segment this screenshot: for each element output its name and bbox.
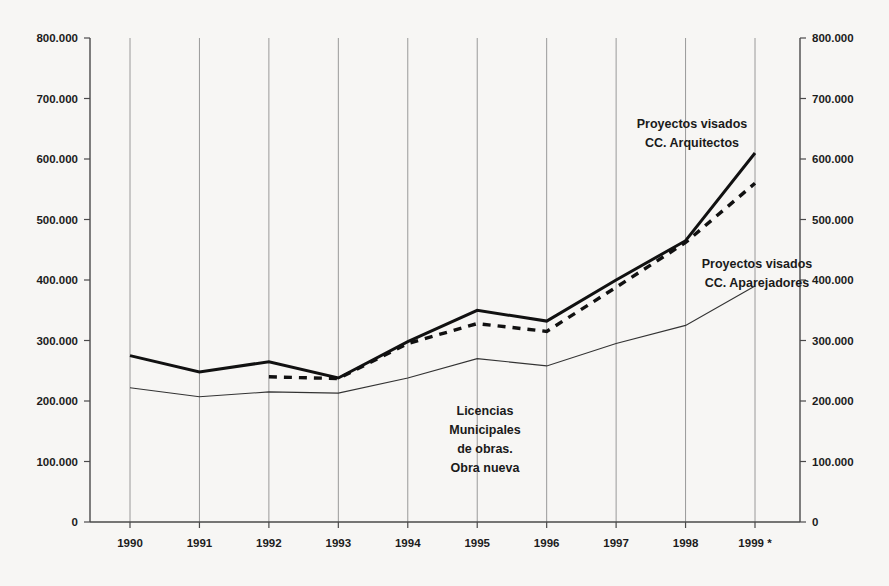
line-chart: 0100.000200.000300.000400.000500.000600.… [0,0,889,586]
chart-container: 0100.000200.000300.000400.000500.000600.… [0,0,889,586]
y-axis-right-label: 600.000 [812,153,854,165]
x-axis-label-1996: 1996 [534,537,560,549]
x-axis-label-1994: 1994 [395,537,421,549]
x-axis-label-1998: 1998 [673,537,699,549]
y-axis-right-label: 400.000 [812,274,854,286]
y-axis-right-label: 500.000 [812,214,854,226]
x-axis-label-1997: 1997 [603,537,629,549]
y-axis-right-label: 100.000 [812,456,854,468]
y-axis-right-label: 200.000 [812,395,854,407]
y-axis-left-label: 800.000 [36,32,78,44]
x-axis-label-1993: 1993 [326,537,352,549]
y-axis-left-label: 300.000 [36,335,78,347]
y-axis-right-label: 300.000 [812,335,854,347]
y-axis-left-label: 100.000 [36,456,78,468]
y-axis-left-label: 700.000 [36,93,78,105]
x-axis-label-1991: 1991 [187,537,213,549]
y-axis-right-label: 800.000 [812,32,854,44]
y-axis-left-label: 400.000 [36,274,78,286]
y-axis-left-label: 600.000 [36,153,78,165]
y-axis-right-label: 700.000 [812,93,854,105]
y-axis-left-label: 200.000 [36,395,78,407]
x-axis-label-1990: 1990 [117,537,143,549]
y-axis-left-label: 500.000 [36,214,78,226]
x-axis-label-1992: 1992 [256,537,282,549]
chart-background [0,0,889,586]
x-axis-label-1995: 1995 [464,537,490,549]
x-axis-label-1999: 1999 * [738,537,772,549]
y-axis-right-label: 0 [812,516,818,528]
y-axis-left-label: 0 [72,516,78,528]
